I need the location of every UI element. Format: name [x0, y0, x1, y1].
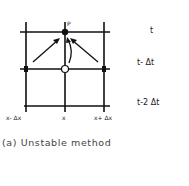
finite-difference-stencil	[0, 0, 189, 186]
center-curved-arrow	[68, 40, 71, 63]
time-label-t-minus-dt: t- Δt	[137, 58, 154, 67]
figure-caption: (a) Unstable method	[2, 137, 111, 148]
left-node-marker	[24, 66, 28, 72]
right-arrow	[72, 40, 98, 62]
time-label-t: t	[150, 26, 153, 35]
point-p-marker	[62, 29, 68, 35]
time-label-t-minus-2dt: t-2 Δt	[137, 98, 159, 107]
space-label-x-minus-dx: x- Δx	[6, 114, 21, 121]
point-p-label: P	[67, 20, 71, 27]
space-label-x: x	[62, 114, 66, 121]
center-open-marker	[62, 66, 69, 73]
space-label-x-plus-dx: x+ Δx	[94, 114, 112, 121]
left-arrow	[33, 40, 58, 62]
right-node-marker	[102, 66, 106, 72]
